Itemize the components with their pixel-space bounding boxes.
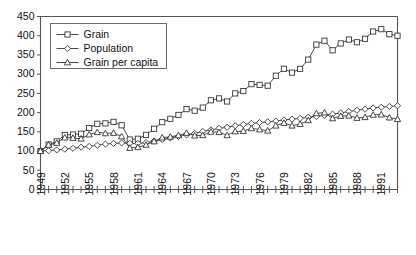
data-point-diamond — [78, 144, 84, 150]
data-point-square — [257, 82, 262, 87]
data-point-diamond — [240, 121, 246, 127]
data-point-triangle — [346, 112, 352, 118]
data-point-square — [314, 42, 319, 47]
data-point-square — [379, 27, 384, 32]
data-point-square — [306, 57, 311, 62]
data-point-triangle — [119, 133, 125, 139]
data-point-square — [371, 29, 376, 34]
data-point-triangle — [378, 111, 384, 117]
data-point-diamond — [378, 104, 384, 110]
data-point-triangle — [183, 130, 189, 136]
data-point-diamond — [224, 124, 230, 130]
data-point-triangle — [297, 121, 303, 127]
data-point-diamond — [62, 146, 68, 152]
data-point-square — [143, 132, 148, 137]
data-point-diamond — [102, 141, 108, 147]
data-point-square — [160, 120, 165, 125]
index-line-chart: 0501001502002503003504004501949195219551… — [0, 0, 416, 255]
y-axis-ticks: 050100150200250300350400450 — [17, 10, 41, 195]
x-tick-label: 1982 — [302, 172, 314, 196]
legend-item-label: Grain — [84, 28, 110, 40]
data-point-square — [241, 88, 246, 93]
data-point-square — [176, 112, 181, 117]
x-tick-label: 1991 — [375, 172, 387, 196]
data-point-square — [103, 121, 108, 126]
data-point-square — [225, 99, 230, 104]
data-point-diamond — [86, 143, 92, 149]
data-point-square — [387, 32, 392, 37]
y-tick-label: 100 — [17, 144, 35, 156]
data-point-diamond — [256, 120, 262, 126]
data-point-square — [346, 37, 351, 42]
x-tick-label: 1967 — [181, 172, 193, 196]
y-tick-label: 150 — [17, 125, 35, 137]
data-point-square — [208, 98, 213, 103]
data-point-square — [233, 91, 238, 96]
data-point-diamond — [289, 116, 295, 122]
data-point-square — [119, 123, 124, 128]
data-point-diamond — [265, 119, 271, 125]
data-point-diamond — [362, 106, 368, 112]
x-tick-label: 1976 — [254, 172, 266, 196]
data-point-diamond — [394, 103, 400, 109]
data-point-triangle — [94, 129, 100, 135]
data-point-square — [249, 82, 254, 87]
data-point-diamond — [54, 147, 60, 153]
data-point-diamond — [119, 140, 125, 146]
data-point-square — [298, 66, 303, 71]
x-tick-label: 1973 — [229, 172, 241, 196]
data-point-square — [338, 41, 343, 46]
data-point-square — [354, 40, 359, 45]
x-tick-label: 1988 — [351, 172, 363, 196]
data-point-square — [151, 126, 156, 131]
x-tick-label: 1970 — [205, 172, 217, 196]
x-axis-labels: 1949195219551958196119641967197019731976… — [35, 172, 388, 196]
x-tick-label: 1955 — [83, 172, 95, 196]
data-point-diamond — [110, 140, 116, 146]
data-point-square — [184, 107, 189, 112]
y-tick-label: 200 — [17, 106, 35, 118]
x-tick-label: 1958 — [108, 172, 120, 196]
data-point-diamond — [94, 142, 100, 148]
data-point-square — [95, 121, 100, 126]
x-tick-label: 1952 — [59, 172, 71, 196]
y-tick-label: 250 — [17, 87, 35, 99]
x-tick-label: 1964 — [156, 172, 168, 196]
data-point-diamond — [370, 105, 376, 111]
legend-item-label: Grain per capita — [84, 56, 159, 68]
data-point-square — [200, 105, 205, 110]
data-point-diamond — [70, 145, 76, 151]
data-point-square — [362, 36, 367, 41]
x-tick-label: 1979 — [278, 172, 290, 196]
data-point-square — [330, 48, 335, 53]
y-tick-label: 300 — [17, 67, 35, 79]
data-point-square — [395, 33, 400, 38]
y-tick-label: 450 — [17, 10, 35, 22]
data-point-square — [289, 70, 294, 75]
legend-item-label: Population — [84, 42, 134, 54]
data-point-square — [65, 32, 70, 37]
data-point-square — [281, 66, 286, 71]
x-tick-label: 1985 — [327, 172, 339, 196]
data-point-square — [216, 96, 221, 101]
chart-container: 0501001502002503003504004501949195219551… — [0, 0, 416, 255]
data-point-square — [168, 116, 173, 121]
y-tick-label: 350 — [17, 48, 35, 60]
data-point-square — [322, 38, 327, 43]
y-tick-label: 50 — [23, 164, 35, 176]
x-tick-label: 1961 — [132, 172, 144, 196]
data-point-square — [87, 125, 92, 130]
y-tick-label: 400 — [17, 29, 35, 41]
data-point-triangle — [321, 109, 327, 115]
data-point-square — [265, 83, 270, 88]
data-point-square — [111, 119, 116, 124]
data-point-triangle — [248, 125, 254, 131]
data-point-diamond — [46, 148, 52, 154]
data-point-square — [192, 108, 197, 113]
data-point-diamond — [354, 107, 360, 113]
data-point-diamond — [386, 103, 392, 109]
legend: GrainPopulationGrain per capita — [51, 24, 167, 69]
x-tick-label: 1949 — [35, 172, 47, 196]
data-point-triangle — [110, 130, 116, 136]
data-point-square — [273, 73, 278, 78]
